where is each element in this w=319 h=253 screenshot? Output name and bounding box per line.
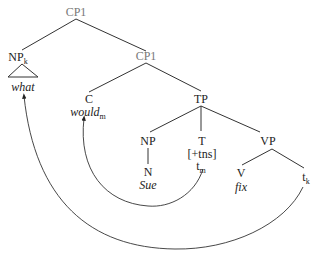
node-t: T (198, 134, 206, 148)
trace-t-k: tk (302, 170, 309, 186)
word-would: wouldm (70, 105, 106, 121)
feature-tns: [+tns] (188, 147, 217, 161)
node-cp1-inner: CP1 (136, 49, 157, 63)
word-what: what (11, 80, 35, 94)
node-np-k: NPk (8, 50, 27, 66)
word-fix: fix (235, 180, 248, 194)
movement-arrow-t-k-to-what (24, 96, 303, 249)
node-tp: TP (194, 92, 208, 106)
node-cp1-root: CP1 (66, 5, 87, 19)
trace-t-m: tm (196, 159, 206, 175)
syntax-tree-diagram: CP1 NPk what CP1 C wouldm TP NP N Sue T … (0, 0, 319, 253)
node-vp: VP (260, 134, 276, 148)
movement-arrow-t-m-to-would (83, 118, 203, 206)
word-sue: Sue (139, 178, 157, 192)
tree-canvas: CP1 NPk what CP1 C wouldm TP NP N Sue T … (0, 0, 319, 253)
node-np: NP (140, 134, 156, 148)
node-n: N (144, 165, 153, 179)
node-c: C (85, 92, 93, 106)
node-v: V (237, 166, 246, 180)
